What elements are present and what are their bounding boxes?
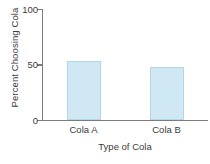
bar-cola-b	[150, 67, 184, 120]
y-tick-label: 0	[33, 114, 38, 125]
plot-area: 0 50 100 Cola A Cola B	[42, 9, 208, 121]
y-tick-label: 50	[27, 59, 38, 70]
y-tick-label: 100	[22, 4, 38, 15]
x-tick-label-cola-b: Cola B	[125, 124, 208, 135]
x-axis-line	[42, 120, 208, 121]
bar-cola-a	[67, 61, 101, 120]
x-axis-title: Type of Cola	[42, 141, 208, 152]
y-axis-title: Percent Choosing Cola	[9, 0, 20, 117]
bar-chart-figure: Percent Choosing Cola 0 50 100 Cola A Co…	[0, 0, 210, 164]
x-tick-label-cola-a: Cola A	[42, 124, 125, 135]
